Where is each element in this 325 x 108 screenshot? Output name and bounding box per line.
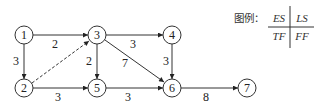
- edge-1-2-label: 3: [13, 54, 19, 68]
- legend-title: 图例：: [234, 12, 264, 24]
- node-4: 4: [163, 26, 181, 44]
- node-5: 5: [88, 79, 106, 97]
- legend-tf: TF: [273, 30, 286, 42]
- edge-3-6-label: 7: [122, 56, 128, 70]
- edge-3-5-label: 2: [86, 54, 92, 68]
- svg-text:5: 5: [94, 81, 100, 95]
- svg-text:6: 6: [169, 81, 175, 95]
- node-6: 6: [163, 79, 181, 97]
- node-3: 3: [88, 26, 106, 44]
- legend: 图例： ES LS TF FF: [234, 6, 314, 48]
- legend-es: ES: [272, 12, 286, 24]
- edge-2-5-label: 3: [55, 90, 61, 104]
- edge-5-6-label: 3: [125, 90, 131, 104]
- edge-4-6-label: 3: [163, 54, 169, 68]
- svg-text:2: 2: [21, 81, 27, 95]
- network-diagram: 2 3 3 3 2 7 3 3 8 1 2 3: [0, 0, 325, 108]
- edge-6-7-label: 8: [203, 90, 209, 104]
- node-2: 2: [15, 79, 33, 97]
- svg-text:4: 4: [169, 28, 175, 42]
- svg-text:7: 7: [244, 81, 250, 95]
- svg-text:3: 3: [94, 28, 100, 42]
- node-7: 7: [238, 79, 256, 97]
- legend-ls: LS: [295, 12, 308, 24]
- legend-ff: FF: [294, 30, 309, 42]
- node-1: 1: [15, 26, 33, 44]
- edge-1-3-label: 2: [52, 37, 58, 51]
- edge-3-4-label: 3: [130, 37, 136, 51]
- svg-text:1: 1: [21, 28, 27, 42]
- edge-2-3-dummy: [32, 41, 89, 83]
